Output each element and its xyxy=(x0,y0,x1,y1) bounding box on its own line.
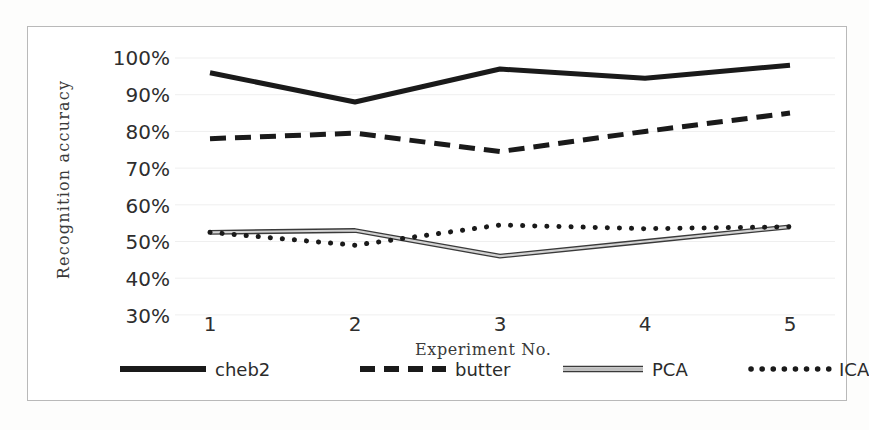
legend-label: ICA xyxy=(839,359,869,380)
series-line-butter xyxy=(210,113,790,152)
chart-figure: Recognition accuracy 100% 90% 80% 70% 60… xyxy=(0,0,869,430)
legend-swatch-dashed-icon xyxy=(358,362,448,376)
chart-legend: cheb2 butter PCA ICA xyxy=(118,356,818,386)
series-lines xyxy=(210,65,790,256)
legend-item-ica[interactable]: ICA xyxy=(748,356,869,382)
legend-swatch-solid-icon xyxy=(118,362,208,376)
legend-label: cheb2 xyxy=(215,359,270,380)
series-line-cheb2 xyxy=(210,65,790,102)
legend-swatch-double-icon xyxy=(561,362,645,376)
legend-item-butter[interactable]: butter xyxy=(358,356,510,382)
legend-label: PCA xyxy=(652,359,688,380)
legend-swatch-dotted-icon xyxy=(748,362,832,376)
gridlines xyxy=(175,58,835,315)
legend-item-pca[interactable]: PCA xyxy=(561,356,688,382)
legend-label: butter xyxy=(455,359,510,380)
legend-item-cheb2[interactable]: cheb2 xyxy=(118,356,270,382)
